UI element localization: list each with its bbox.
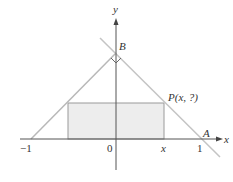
y-axis-arrow-icon: [114, 18, 119, 25]
y-axis-label: y: [112, 3, 118, 15]
x-axis-label: x: [223, 133, 229, 145]
tick-label-neg-one: −1: [20, 142, 32, 154]
tick-label-zero: 0: [107, 142, 113, 154]
point-b-label: B: [119, 40, 126, 52]
point-p-label: P(x, ?): [167, 91, 198, 104]
point-a-label: A: [202, 127, 210, 139]
diagram-canvas: y x B P(x, ?) A −1 0 x 1: [0, 0, 233, 182]
tick-label-x: x: [160, 142, 166, 154]
x-axis-arrow-icon: [216, 137, 223, 142]
tick-label-one: 1: [197, 142, 203, 154]
